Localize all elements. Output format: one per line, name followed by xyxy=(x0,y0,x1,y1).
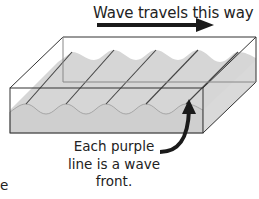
caption-line-1: Each purple xyxy=(62,138,166,156)
wave-direction-label: Wave travels this way xyxy=(93,4,253,22)
cropped-text-fragment: e xyxy=(0,177,8,193)
wavefront-caption: Each purple line is a wave front. xyxy=(62,138,166,191)
caption-line-2: line is a wave xyxy=(62,156,166,174)
caption-line-3: front. xyxy=(62,173,166,191)
